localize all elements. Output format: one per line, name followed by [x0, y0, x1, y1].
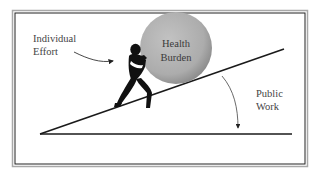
label-line: Public	[256, 87, 283, 100]
public-work-label: Public Work	[256, 87, 283, 113]
public-work-arrow	[222, 76, 238, 128]
label-line: Burden	[151, 51, 201, 65]
label-line: Individual	[33, 32, 76, 45]
individual-effort-arrow	[74, 52, 113, 62]
label-line: Effort	[33, 45, 76, 58]
individual-effort-label: Individual Effort	[33, 32, 76, 58]
label-line: Health	[151, 37, 201, 51]
label-line: Work	[256, 100, 283, 113]
diagram: Individual Effort Health Burden Public W…	[0, 0, 318, 180]
health-burden-label: Health Burden	[151, 37, 201, 65]
